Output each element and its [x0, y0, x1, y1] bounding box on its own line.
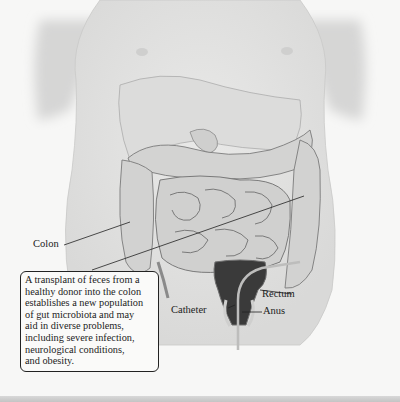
caption-line: establishes a new population: [25, 297, 154, 309]
caption-box: A transplant of feces from a healthy don…: [20, 271, 159, 372]
caption-line: neurological conditions,: [25, 344, 154, 356]
bottom-divider: [0, 396, 400, 402]
label-rectum: Rectum: [262, 288, 295, 299]
nipple-left: [136, 48, 148, 56]
caption-line: of gut microbiota and may: [25, 309, 154, 321]
label-catheter: Catheter: [171, 304, 207, 315]
caption-line: healthy donor into the colon: [25, 286, 154, 298]
ascending-colon: [120, 160, 154, 273]
diagram-canvas: Colon Rectum Catheter Anus A transplant …: [0, 0, 400, 402]
nipple-right: [281, 47, 293, 55]
caption-line: and obesity.: [25, 355, 154, 367]
caption-line: A transplant of feces from a: [25, 274, 154, 286]
label-colon: Colon: [33, 238, 59, 249]
caption-line: aid in diverse problems,: [25, 320, 154, 332]
caption-line: including severe infection,: [25, 332, 154, 344]
label-anus: Anus: [263, 305, 285, 316]
